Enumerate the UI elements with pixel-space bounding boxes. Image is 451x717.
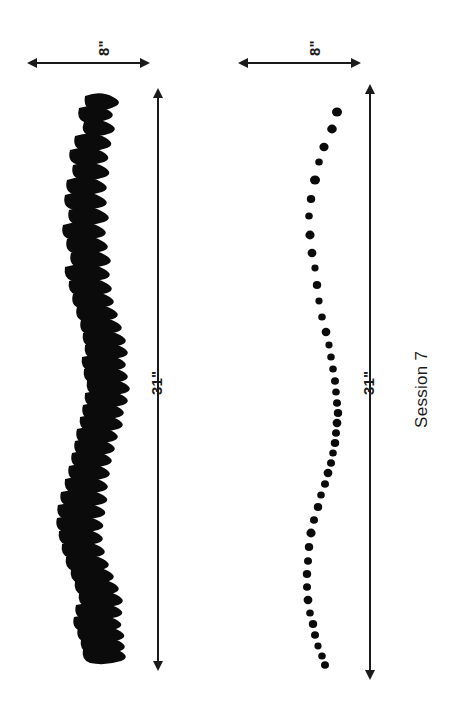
stroke-mark-group: [56, 93, 129, 664]
left-width-label: 8": [95, 40, 112, 56]
left-height-label: 31": [148, 371, 165, 395]
dot-mark-group: [303, 107, 342, 668]
right-width-dimension-arrow: [247, 62, 352, 64]
figure-canvas: 8" 31": [0, 0, 451, 717]
right-width-label: 8": [306, 40, 323, 56]
dot-trace: [292, 95, 362, 675]
left-width-dimension-arrow: [36, 62, 141, 64]
right-height-label: 31": [360, 371, 377, 395]
cursive-stroke-trace: [55, 88, 150, 668]
figure-caption: Session 7: [412, 351, 432, 428]
